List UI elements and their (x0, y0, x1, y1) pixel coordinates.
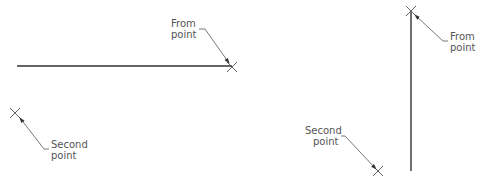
from-point-label-line1: From (450, 31, 475, 42)
from-point-leader (199, 29, 229, 63)
from-point-leader (415, 15, 448, 41)
second-point-leader (20, 118, 49, 149)
second-point-leader (341, 136, 376, 169)
from-point-label-line2: point (171, 29, 197, 40)
from-point-label-line2: point (450, 42, 476, 53)
from-point-marker-icon (227, 62, 237, 72)
figure-vertical: From point Second point (305, 6, 476, 176)
figure-horizontal: From point Second point (10, 18, 237, 161)
second-point-label-line2: point (313, 136, 339, 147)
diagram-canvas: From point Second point From point Secon… (0, 0, 480, 182)
from-point-label-line1: From (171, 18, 196, 29)
second-point-label-line1: Second (305, 125, 342, 136)
second-point-label-line2: point (51, 150, 77, 161)
second-point-label-line1: Second (51, 139, 88, 150)
second-point-marker-icon (10, 108, 20, 118)
